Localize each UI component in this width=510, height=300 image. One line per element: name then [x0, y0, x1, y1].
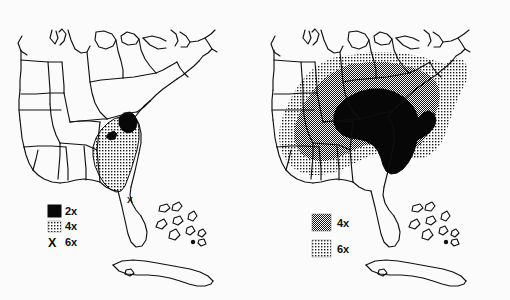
right-map-panel: 4x 6x [255, 0, 510, 300]
right-map-svg: 4x 6x [255, 0, 510, 300]
legend-label-6x: 6x [65, 236, 78, 248]
legend-swatch-light-stipple [312, 240, 331, 257]
map-figure: 2x 4x X 6x X [0, 0, 510, 300]
legend-swatch-solid-black [48, 205, 61, 217]
legend-label-2x: 2x [65, 205, 78, 217]
legend-swatch-x-marker: X [48, 236, 57, 250]
map-marker-x-6x: X [127, 195, 133, 205]
legend-label-4x: 4x [65, 220, 78, 232]
legend-label-4x: 4x [337, 217, 350, 229]
legend-swatch-dense-checker [312, 214, 331, 231]
legend-swatch-light-stipple [48, 221, 61, 232]
legend-label-6x: 6x [337, 243, 350, 255]
left-map-svg: 2x 4x X 6x X [0, 0, 255, 300]
legend-right: 4x 6x [312, 214, 350, 257]
legend-left: 2x 4x X 6x [48, 205, 78, 250]
left-map-panel: 2x 4x X 6x X [0, 0, 255, 300]
